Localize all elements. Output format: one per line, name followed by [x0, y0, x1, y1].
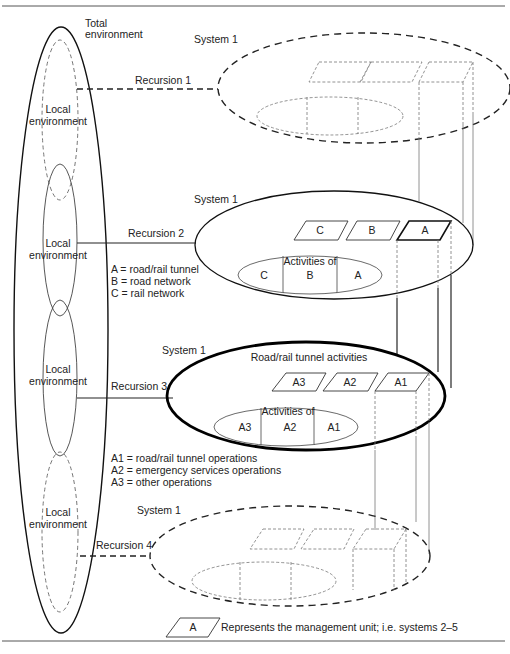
recursion-3-system-label: System 1	[162, 344, 206, 356]
recursion-2-activities-title: Activities of	[283, 255, 336, 267]
recursion-4-label: Recursion 4	[96, 539, 152, 551]
recursion-3-label: Recursion 3	[111, 380, 167, 392]
recursion-2-legend-item: B = road network	[111, 275, 191, 287]
local-environment-label-2: Local	[45, 237, 70, 249]
activity-a1: A1	[328, 421, 341, 433]
local-environment-label-2: environment	[29, 249, 87, 261]
recursion-4-activities-ellipse	[192, 562, 336, 600]
unit-a2-label: A2	[344, 376, 357, 388]
local-environment-label-1: Local	[45, 103, 70, 115]
recursion-2-system-label: System 1	[194, 193, 238, 205]
local-environment-label-3: Local	[45, 363, 70, 375]
total-environment-label: environment	[85, 28, 143, 40]
recursion-3-legend-item: A2 = emergency services operations	[111, 464, 281, 476]
activity-a3: A3	[239, 421, 252, 433]
local-environment-label-1: environment	[29, 115, 87, 127]
unit-c-label: C	[316, 224, 324, 236]
local-environment-label-4: environment	[29, 518, 87, 530]
recursion-3-legend-item: A3 = other operations	[111, 476, 212, 488]
local-environment-label-3: environment	[29, 375, 87, 387]
recursion-1-system-label: System 1	[194, 33, 238, 45]
recursion-4-units	[250, 529, 406, 590]
local-environment-label-4: Local	[45, 506, 70, 518]
recursion-4-system-ellipse	[150, 506, 430, 606]
activity-b: B	[306, 269, 313, 281]
unit-b-label: B	[368, 224, 375, 236]
recursion-2-label: Recursion 2	[128, 227, 184, 239]
unit-a1-label: A1	[395, 376, 408, 388]
activity-c: C	[260, 269, 268, 281]
recursion-1-activities-ellipse	[257, 97, 403, 135]
key-symbol-label: A	[189, 621, 196, 633]
recursion-1-system-ellipse	[218, 33, 510, 143]
recursion-2-system-ellipse	[195, 191, 473, 299]
unit-a-label: A	[421, 224, 428, 236]
activity-a: A	[354, 269, 361, 281]
key-description: Represents the management unit; i.e. sys…	[221, 621, 458, 633]
recursion-1-label: Recursion 1	[135, 74, 191, 86]
recursion-2-legend-item: C = rail network	[111, 287, 185, 299]
recursion-3-legend-item: A1 = road/rail tunnel operations	[111, 452, 257, 464]
viable-system-recursion-diagram: Total environment Local environment Loca…	[0, 0, 510, 654]
recursion-3-title: Road/rail tunnel activities	[251, 351, 368, 363]
recursion-2-legend-item: A = road/rail tunnel	[111, 263, 199, 275]
recursion-4-system-label: System 1	[137, 504, 181, 516]
activity-a2: A2	[284, 421, 297, 433]
recursion-3-activities-title: Activities of	[261, 405, 314, 417]
unit-a3-label: A3	[293, 376, 306, 388]
local-environment-4	[42, 452, 78, 612]
